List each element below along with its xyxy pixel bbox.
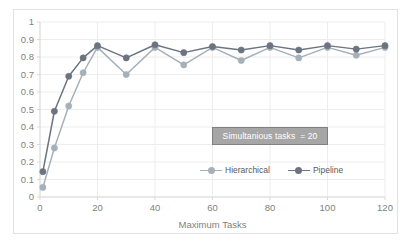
y-tick-label: 0.5: [21, 104, 34, 115]
data-point-hierarchical: [353, 52, 359, 58]
y-tick-label: 0.9: [21, 34, 34, 45]
data-point-hierarchical: [51, 145, 57, 151]
y-tick-label: 0.7: [21, 69, 34, 80]
x-tick-label: 60: [207, 202, 218, 213]
data-point-hierarchical: [40, 184, 46, 190]
y-tick-label: 1: [29, 16, 34, 27]
legend-label-pipeline: Pipeline: [313, 165, 343, 175]
x-tick-labels-group: 020406080100120: [37, 202, 393, 213]
data-point-hierarchical: [80, 70, 86, 76]
legend-marker-icon-pipeline: [288, 166, 310, 175]
y-tick-label: 0.1: [21, 174, 34, 185]
data-point-pipeline: [324, 43, 330, 49]
data-point-pipeline: [80, 55, 86, 61]
legend-label-hierarchical: Hierarchical: [225, 165, 270, 175]
data-point-pipeline: [353, 46, 359, 52]
data-point-pipeline: [181, 50, 187, 56]
data-point-pipeline: [382, 43, 388, 49]
data-point-hierarchical: [238, 57, 244, 63]
series-line-pipeline: [43, 45, 385, 172]
data-point-pipeline: [40, 169, 46, 175]
y-tick-label: 0.3: [21, 139, 34, 150]
y-tick-labels-group: 00.10.20.30.40.50.60.70.80.91: [21, 16, 34, 202]
data-point-pipeline: [296, 47, 302, 53]
y-tick-label: 0.2: [21, 156, 34, 167]
x-tick-label: 40: [150, 202, 161, 213]
line-chart-svg: 00.10.20.30.40.50.60.70.80.91 0204060801…: [0, 0, 412, 249]
data-point-pipeline: [209, 43, 215, 49]
chart-container: 00.10.20.30.40.50.60.70.80.91 0204060801…: [0, 0, 412, 249]
data-point-hierarchical: [296, 55, 302, 61]
data-point-pipeline: [267, 43, 273, 49]
y-tick-label: 0: [29, 191, 34, 202]
x-tick-label: 120: [377, 202, 393, 213]
x-tick-label: 0: [37, 202, 42, 213]
data-point-hierarchical: [181, 62, 187, 68]
legend-item-pipeline: Pipeline: [288, 165, 343, 175]
y-tick-label: 0.8: [21, 51, 34, 62]
annotation-label: Simultanious tasks = 20: [223, 131, 318, 141]
data-point-pipeline: [94, 43, 100, 49]
data-point-hierarchical: [123, 71, 129, 77]
y-tick-label: 0.4: [21, 121, 34, 132]
y-tick-label: 0.6: [21, 86, 34, 97]
x-tick-label: 20: [92, 202, 103, 213]
data-point-hierarchical: [66, 103, 72, 109]
data-point-pipeline: [238, 47, 244, 53]
legend-marker-icon-hierarchical: [200, 166, 222, 175]
data-point-pipeline: [66, 73, 72, 79]
data-point-pipeline: [152, 42, 158, 48]
data-point-pipeline: [123, 55, 129, 61]
legend-item-hierarchical: Hierarchical: [200, 165, 270, 175]
annotation-callout: Simultanious tasks = 20: [212, 127, 328, 145]
data-point-pipeline: [51, 108, 57, 114]
chart-legend: Hierarchical Pipeline: [200, 162, 360, 178]
x-tick-label: 80: [265, 202, 276, 213]
x-tick-label: 100: [320, 202, 336, 213]
x-axis-title: Maximum Tasks: [179, 219, 247, 230]
